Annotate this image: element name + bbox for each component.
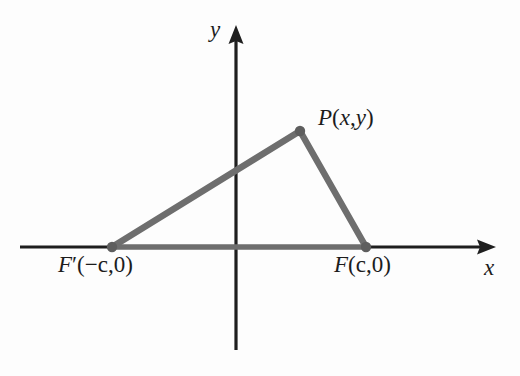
point-p-paren-close: ) — [366, 105, 374, 130]
focus-left-letter: F — [58, 252, 72, 277]
diagram-svg — [0, 0, 520, 376]
vertex-dot-focus-right — [361, 242, 371, 252]
x-axis-label: x — [484, 256, 494, 279]
point-p-label: P(x,y) — [318, 106, 374, 129]
y-axis-label: y — [210, 18, 220, 41]
point-p-letter: P — [318, 105, 332, 130]
focus-left-coords: (−c,0) — [77, 252, 133, 277]
focus-left-label: F′(−c,0) — [58, 253, 133, 276]
focus-right-label: F(c,0) — [334, 253, 391, 276]
point-p-x: x — [340, 105, 350, 130]
point-p-y: y — [356, 105, 366, 130]
focus-right-letter: F — [334, 252, 348, 277]
edge-p-to-focus-right — [300, 131, 366, 247]
vertex-dot-focus-left — [107, 242, 117, 252]
edge-focus-left-to-p — [112, 131, 300, 247]
point-p-paren-open: ( — [332, 105, 340, 130]
focus-right-coords: (c,0) — [348, 252, 391, 277]
vertex-dot-p — [295, 126, 305, 136]
figure-canvas: y x P(x,y) F′(−c,0) F(c,0) — [0, 0, 520, 376]
